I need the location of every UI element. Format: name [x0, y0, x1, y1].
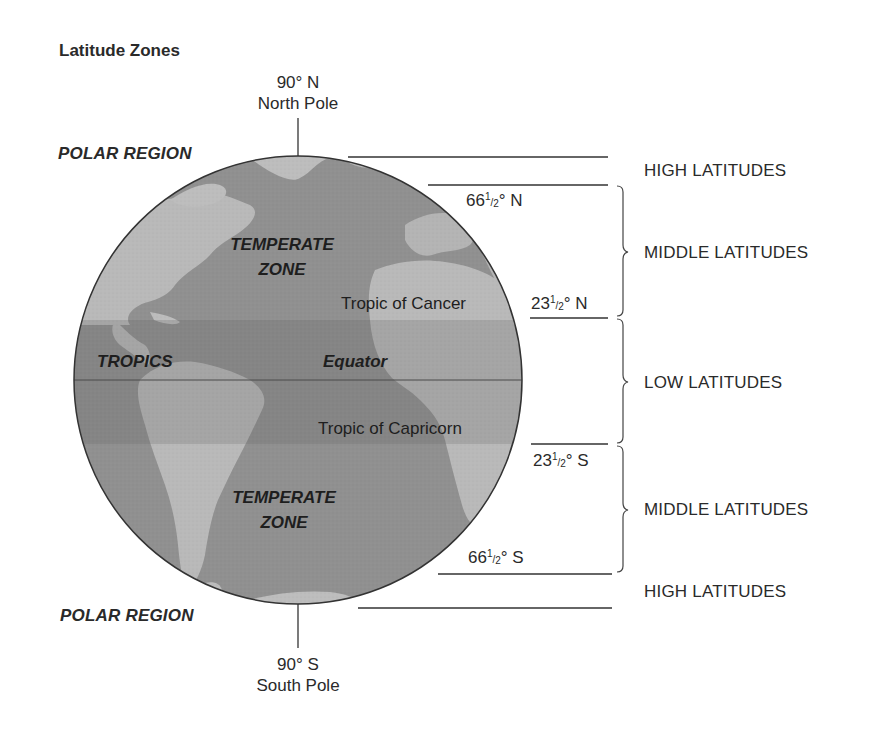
- tropic-of-capricorn-label: Tropic of Capricorn: [318, 419, 462, 439]
- south-pole-label: 90° S South Pole: [248, 654, 348, 696]
- globe: [70, 150, 530, 610]
- high-latitudes-north-label: HIGH LATITUDES: [644, 161, 786, 181]
- polar-region-north-label: POLAR REGION: [58, 144, 192, 164]
- temperate-zone-south-label: TEMPERATE ZONE: [220, 485, 348, 535]
- degree-23-south: 231/2° S: [533, 451, 589, 471]
- equator-label: Equator: [323, 349, 387, 374]
- south-pole-name: South Pole: [248, 675, 348, 696]
- temperate-zone-north-label: TEMPERATE ZONE: [218, 232, 346, 282]
- degree-66-south: 661/2° S: [468, 548, 524, 568]
- polar-region-south-label: POLAR REGION: [60, 606, 194, 626]
- brace-middle-south: [617, 446, 628, 572]
- degree-23-north: 231/2° N: [531, 294, 588, 314]
- tropic-of-cancer-label: Tropic of Cancer: [341, 294, 466, 314]
- degree-66-north: 661/2° N: [466, 191, 523, 211]
- brace-low: [617, 319, 628, 443]
- middle-latitudes-south-label: MIDDLE LATITUDES: [644, 500, 808, 520]
- middle-latitudes-north-label: MIDDLE LATITUDES: [644, 243, 808, 263]
- high-latitudes-south-label: HIGH LATITUDES: [644, 582, 786, 602]
- low-latitudes-label: LOW LATITUDES: [644, 373, 782, 393]
- brace-middle-north: [617, 186, 628, 316]
- tropics-label: TROPICS: [97, 349, 173, 374]
- south-pole-degree: 90° S: [248, 654, 348, 675]
